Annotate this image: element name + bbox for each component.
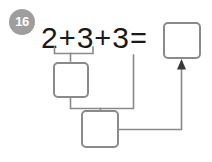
partial-sum-box-2[interactable]: [81, 110, 119, 148]
arrow-to-answer-icon: [119, 68, 182, 130]
partial-sum-box-1[interactable]: [53, 62, 89, 98]
arrowhead-icon: [177, 59, 186, 70]
bracket-first-pair-icon: [55, 47, 94, 61]
answer-box[interactable]: [163, 22, 201, 59]
worksheet-problem: 16 2 + 3 + 3 =: [0, 0, 212, 162]
